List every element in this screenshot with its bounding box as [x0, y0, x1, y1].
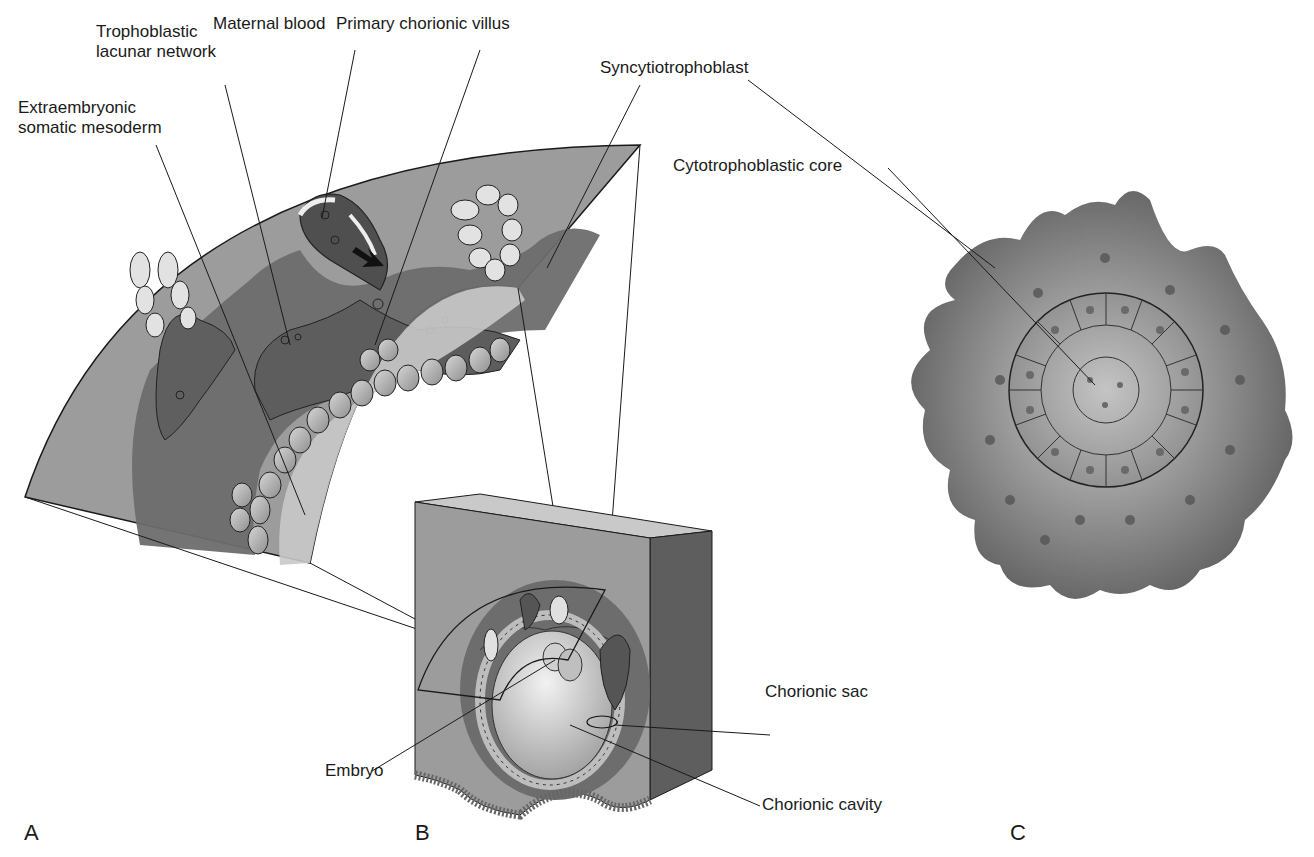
panel-letter-c: C [1010, 820, 1026, 846]
label-syncytiotrophoblast: Syncytiotrophoblast [600, 58, 748, 78]
label-line: lacunar network [96, 42, 216, 62]
panel-letter-b: B [415, 820, 430, 846]
label-primary-chorionic-villus: Primary chorionic villus [336, 14, 510, 34]
label-line: somatic mesoderm [18, 118, 162, 138]
label-embryo: Embryo [325, 761, 384, 781]
label-trophoblastic-lacunar-network: Trophoblastic lacunar network [96, 22, 216, 62]
panel-letter-a: A [24, 820, 39, 846]
label-cytotrophoblastic-core: Cytotrophoblastic core [673, 156, 842, 176]
panel-a-section [25, 145, 640, 565]
label-line: Trophoblastic [96, 22, 216, 42]
label-line: Extraembryonic [18, 98, 162, 118]
label-chorionic-sac: Chorionic sac [765, 682, 868, 702]
label-extraembryonic-somatic-mesoderm: Extraembryonic somatic mesoderm [18, 98, 162, 138]
label-maternal-blood: Maternal blood [213, 14, 325, 34]
chorionic-villus-figure: Extraembryonic somatic mesoderm Trophobl… [0, 0, 1314, 857]
label-chorionic-cavity: Chorionic cavity [762, 795, 882, 815]
